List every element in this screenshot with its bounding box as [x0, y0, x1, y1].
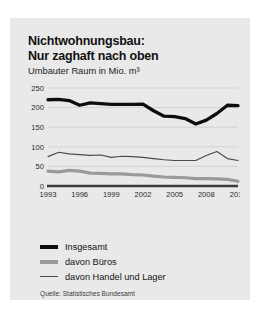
y-axis-tick-label: 50 [36, 162, 44, 171]
chart-legend: Insgesamt davon Büros davon Handel und L… [40, 240, 250, 285]
series-line-handel-und-lager [48, 152, 238, 161]
title-line-1: Nichtwohnungsbau: [28, 34, 238, 49]
legend-item-handel-und-lager: davon Handel und Lager [40, 270, 250, 283]
source-note: Quelle: Statistisches Bundesamt [40, 290, 240, 297]
line-chart-svg: 050100150200250 199319961999200220052008… [28, 82, 240, 207]
chart-plot-area: 050100150200250 199319961999200220052008… [28, 82, 240, 207]
legend-swatch-line-icon [40, 270, 58, 283]
series-line-bueros [48, 170, 238, 181]
x-axis-tick-label: 2011 [230, 190, 240, 199]
legend-swatch-line-icon [40, 255, 58, 268]
title-line-2: Nur zaghaft nach oben [28, 49, 238, 64]
x-axis-tick-label: 1993 [40, 190, 57, 199]
x-axis-tick-label: 1996 [71, 190, 88, 199]
chart-card: Nichtwohnungsbau: Nur zaghaft nach oben … [10, 18, 250, 300]
y-axis-tick-label: 150 [31, 123, 44, 132]
x-axis-tick-label: 2002 [135, 190, 152, 199]
y-axis-tick-label: 250 [31, 84, 44, 93]
y-axis-tick-label: 100 [31, 143, 44, 152]
page-title: Nichtwohnungsbau: Nur zaghaft nach oben [28, 34, 238, 63]
legend-item-bueros: davon Büros [40, 255, 250, 268]
legend-label: davon Handel und Lager [65, 272, 166, 282]
x-axis-tick-label: 2008 [198, 190, 215, 199]
chart-subtitle: Umbauter Raum in Mio. m³ [28, 66, 238, 77]
x-axis-tick-label: 1999 [103, 190, 120, 199]
legend-label: Insgesamt [65, 242, 107, 252]
legend-swatch-line-icon [40, 240, 58, 253]
y-axis-tick-label: 200 [31, 103, 44, 112]
legend-item-insgesamt: Insgesamt [40, 240, 250, 253]
x-axis-tick-labels: 1993199619992002200520082011 [40, 190, 240, 199]
series-line-insgesamt [48, 99, 238, 124]
legend-label: davon Büros [65, 257, 117, 267]
x-axis-tick-label: 2005 [166, 190, 183, 199]
y-axis-tick-labels: 050100150200250 [31, 84, 44, 191]
series-lines [48, 99, 238, 181]
